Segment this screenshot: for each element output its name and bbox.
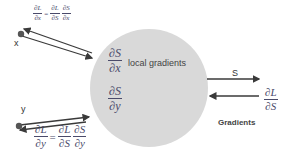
gradients-caption: Gradients [218, 118, 255, 127]
local-gradients-label: local gradients [128, 58, 186, 68]
dl-ds-num: ∂L [264, 87, 278, 100]
dl-dx-fraction: ∂L ∂x [33, 5, 42, 22]
y-label: y [21, 104, 26, 114]
ds-dy-den: ∂y [75, 137, 85, 149]
ds-dx-den: ∂x [63, 14, 70, 22]
x-chain-rule-equation: ∂L ∂x = ∂L ∂S ∂S ∂x [33, 5, 71, 22]
ds-dx-num: ∂S [62, 5, 71, 14]
ds-dx-den: ∂x [109, 61, 120, 74]
x-backward-arrow [24, 29, 92, 53]
dl-ds-den: ∂S [265, 100, 276, 112]
equals-sign: = [44, 10, 48, 18]
dl-dy-den: ∂y [36, 137, 46, 149]
ds-dy-num: ∂S [108, 85, 122, 99]
dl-ds-den: ∂S [59, 137, 70, 149]
dl-ds-den: ∂S [52, 14, 59, 22]
equals-sign: = [50, 131, 56, 143]
ds-dy-fraction: ∂S ∂y [73, 124, 86, 149]
dl-dx-num: ∂L [33, 5, 42, 14]
dl-ds-fraction: ∂L ∂S [50, 5, 59, 22]
y-input-dot [16, 123, 22, 129]
ds-dy-den: ∂y [109, 99, 120, 112]
dl-dy-num: ∂L [34, 124, 48, 137]
dl-ds-num: ∂L [50, 5, 59, 14]
dl-dx-den: ∂x [34, 14, 41, 22]
x-input-dot [18, 31, 24, 37]
dl-ds-fraction: ∂L ∂S [58, 124, 72, 149]
upstream-gradient-dl-ds: ∂L ∂S [264, 87, 278, 112]
ds-dx-num: ∂S [108, 47, 122, 61]
y-chain-rule-equation: ∂L ∂y = ∂L ∂S ∂S ∂y [34, 124, 86, 149]
dl-dy-fraction: ∂L ∂y [34, 124, 48, 149]
s-label: S [232, 68, 238, 78]
dl-ds-num: ∂L [58, 124, 72, 137]
ds-dx-fraction: ∂S ∂x [62, 5, 71, 22]
ds-dy-num: ∂S [73, 124, 86, 137]
x-forward-arrow [22, 36, 92, 58]
local-gradient-ds-dy: ∂S ∂y [108, 85, 122, 112]
local-gradient-ds-dx: ∂S ∂x [108, 47, 122, 74]
x-label: x [14, 38, 19, 48]
